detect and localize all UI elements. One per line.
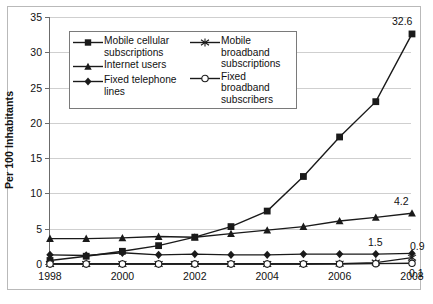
data-label: 1.5: [368, 236, 383, 248]
y-axis-tick-label: 0: [36, 258, 42, 270]
legend-label: Mobile cellularsubscriptions: [103, 35, 169, 58]
x-axis-tick-label: 2000: [111, 270, 134, 282]
asterisk-marker-icon: [190, 36, 220, 49]
data-point-circle-open: [83, 261, 89, 267]
legend-entry[interactable]: Internet users: [73, 59, 189, 73]
chart-legend: Mobile cellularsubscriptionsInternet use…: [69, 31, 297, 109]
y-axis-tick-label: 5: [36, 223, 42, 235]
data-label: 4.2: [394, 195, 409, 207]
legend-label: Fixed telephonelines: [103, 74, 177, 97]
legend-entry[interactable]: Mobile broadbandsubscriptions: [190, 35, 296, 70]
y-axis-tick-label: 35: [30, 11, 42, 23]
data-point-circle-open: [47, 261, 53, 267]
data-point-circle-open: [409, 260, 415, 266]
data-point-diamond: [155, 251, 162, 259]
data-point-circle-open: [119, 261, 125, 267]
data-point-circle-open: [155, 261, 161, 267]
y-axis-tick-label: 15: [30, 152, 42, 164]
data-label: 0.1: [409, 267, 424, 279]
data-point-square: [409, 31, 416, 38]
data-point-circle-open: [228, 261, 234, 267]
series-group: [46, 249, 415, 260]
data-point-circle-open: [336, 261, 342, 267]
y-axis-tick-label: 20: [30, 117, 42, 129]
x-axis-tick-label: 1998: [38, 270, 61, 282]
x-axis-tick-label: 2002: [183, 270, 206, 282]
data-point-square: [372, 98, 379, 105]
y-axis-title: Per 100 Inhabitants: [3, 91, 15, 189]
data-point-square: [228, 223, 235, 230]
data-point-square: [264, 208, 271, 215]
data-point-square: [336, 134, 343, 141]
data-label: 0.9: [410, 240, 425, 252]
legend-label: Fixed broadbandsubscribers: [220, 71, 296, 106]
data-point-square: [155, 242, 162, 249]
data-point-circle-open: [300, 261, 306, 267]
circle-open-marker-icon: [190, 72, 220, 85]
legend-column-right: Mobile broadbandsubscriptionsFixed broad…: [190, 35, 296, 106]
y-axis-tick-label: 10: [30, 187, 42, 199]
legend-entry[interactable]: Mobile cellularsubscriptions: [73, 35, 189, 58]
data-point-circle-open: [264, 261, 270, 267]
data-point-square: [300, 173, 307, 180]
data-point-diamond: [300, 250, 307, 258]
data-point-diamond: [372, 250, 379, 258]
chart-figure: Per 100 Inhabitants 05101520253035 19982…: [0, 0, 433, 304]
data-point-circle-open: [373, 260, 379, 266]
x-axis-tick-label: 2006: [328, 270, 351, 282]
data-point-diamond: [336, 250, 343, 258]
y-axis-tick-label: 30: [30, 46, 42, 58]
x-axis-tick-label: 2004: [256, 270, 279, 282]
data-point-diamond: [264, 251, 271, 259]
triangle-marker-icon: [73, 60, 103, 73]
y-axis-tick-label: 25: [30, 82, 42, 94]
data-point-circle-open: [192, 261, 198, 267]
legend-entry[interactable]: Fixed telephonelines: [73, 74, 189, 97]
legend-column-left: Mobile cellularsubscriptionsInternet use…: [73, 35, 189, 98]
legend-label: Internet users: [103, 59, 166, 71]
square-marker-icon: [73, 36, 103, 49]
data-label: 32.6: [392, 15, 412, 27]
data-point-diamond: [191, 250, 198, 258]
diamond-marker-icon: [73, 75, 103, 88]
legend-entry[interactable]: Fixed broadbandsubscribers: [190, 71, 296, 106]
legend-label: Mobile broadbandsubscriptions: [220, 35, 296, 70]
data-point-diamond: [227, 251, 234, 259]
